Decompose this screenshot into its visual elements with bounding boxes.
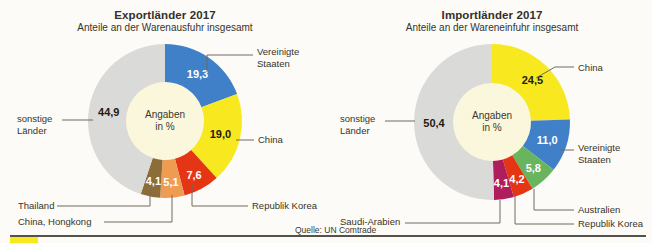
import-label-china: China — [578, 62, 603, 74]
slice-value-label: 50,4 — [423, 117, 445, 129]
import-label-australien: Australien — [578, 204, 620, 216]
export-label-china: China — [258, 134, 283, 146]
leader-line-export-china-hongkong — [104, 195, 172, 222]
import-label-republik-korea: Republik Korea — [578, 218, 643, 230]
bottom-rule — [10, 235, 646, 237]
export-label-sonstige-laender: sonstige Länder — [17, 113, 79, 136]
export-label-republik-korea: Republik Korea — [252, 200, 317, 212]
slice-value-label: 5,1 — [163, 176, 178, 188]
slice-value-label: 7,6 — [186, 169, 201, 181]
center-unit-label: Angaben — [472, 110, 512, 121]
leader-line-import-saudi-arabien — [405, 200, 500, 223]
slice-value-label: 19,3 — [187, 68, 208, 80]
center-unit-label: Angaben — [145, 109, 185, 120]
slice-value-label: 11,0 — [537, 134, 558, 146]
slice-value-label: 4,1 — [146, 175, 161, 187]
export-label-thailand: Thailand — [18, 200, 54, 212]
export-donut-chart: 19,319,07,65,14,144,9Angabenin % — [88, 44, 242, 198]
import-donut-chart: 24,511,05,84,24,150,4Angabenin % — [414, 44, 570, 200]
leader-line-import-australien — [534, 189, 574, 210]
import-label-sonstige-laender: sonstige Länder — [340, 113, 402, 136]
slice-value-label: 4,2 — [509, 173, 524, 185]
accent-yellow-block — [10, 237, 38, 243]
center-unit-label: in % — [155, 121, 175, 132]
export-label-china-hongkong: China, Hongkong — [18, 216, 91, 228]
slice-value-label: 4,1 — [494, 177, 509, 189]
donut-charts-svg: 19,319,07,65,14,144,9Angabenin % 24,511,… — [0, 0, 652, 243]
source-note: Quelle: UN Comtrade — [295, 225, 376, 235]
export-import-infographic: Exportländer 2017 Anteile an der Warenau… — [0, 0, 652, 243]
slice-value-label: 44,9 — [98, 106, 119, 118]
slice-value-label: 5,8 — [526, 162, 541, 174]
leader-line-export-thailand — [57, 190, 150, 206]
import-label-vereinigte-staaten: Vereinigte Staaten — [578, 142, 640, 165]
slice-value-label: 19,0 — [210, 128, 231, 140]
export-label-vereinigte-staaten: Vereinigte Staaten — [257, 46, 319, 69]
center-unit-label: in % — [482, 122, 502, 133]
